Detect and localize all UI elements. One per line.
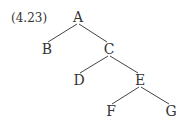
edge-c-d	[80, 56, 108, 73]
node-d: D	[73, 73, 84, 87]
edge-c-e	[110, 56, 138, 73]
edge-e-g	[141, 87, 169, 104]
edge-a-b	[48, 24, 77, 42]
edge-a-c	[79, 24, 107, 42]
node-e: E	[135, 73, 145, 87]
node-a: A	[73, 10, 83, 24]
tree-edges	[0, 0, 186, 126]
node-g: G	[165, 104, 176, 118]
node-f: F	[106, 104, 116, 118]
edge-e-f	[112, 87, 139, 104]
node-c: C	[104, 42, 115, 56]
node-b: B	[42, 42, 52, 56]
